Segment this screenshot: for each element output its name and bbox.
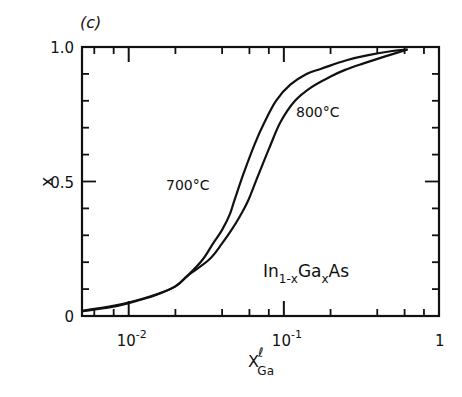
- x-tick-label: 10-1: [272, 328, 302, 350]
- y-axis-ticks: [82, 74, 439, 289]
- compound-ga: Ga: [298, 261, 322, 281]
- x-tick-label: 10-2: [117, 328, 147, 350]
- series-line-800c: [82, 50, 407, 312]
- compound-ga-subscript: x: [321, 272, 328, 286]
- compound-in: In: [263, 261, 279, 281]
- x-axis-ticks: [94, 47, 424, 316]
- data-series: [82, 50, 407, 312]
- panel-label: (c): [80, 13, 101, 32]
- x-axis-label-superscript: ℓ: [257, 345, 263, 360]
- series-line-700c: [82, 50, 407, 311]
- compound-label: In1-xGaxAs: [263, 261, 349, 286]
- curve-label-700: 700°C: [166, 177, 210, 193]
- x-axis-label: XℓGa: [248, 345, 274, 378]
- y-tick-label: 0: [64, 308, 74, 326]
- y-tick-label: 1.0: [50, 39, 74, 57]
- plot-frame: [82, 47, 439, 316]
- compound-in-subscript: 1-x: [279, 272, 298, 286]
- chart-figure: (c) 10-210-11 00.51.0 700°C 800°C In1-xG…: [0, 0, 462, 397]
- chart-svg: (c) 10-210-11 00.51.0 700°C 800°C In1-xG…: [0, 0, 462, 397]
- y-axis-label: x: [39, 177, 58, 186]
- curve-label-800: 800°C: [296, 104, 340, 120]
- compound-as: As: [329, 261, 350, 281]
- x-tick-label: 1: [435, 332, 445, 350]
- x-axis-label-subscript: Ga: [257, 364, 274, 378]
- x-axis-tick-labels: 10-210-11: [117, 328, 445, 350]
